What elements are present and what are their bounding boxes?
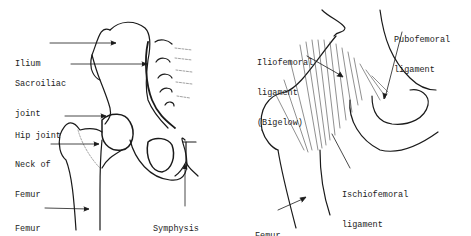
pelvis-drawing	[59, 22, 198, 230]
label-line: ligament	[342, 220, 408, 230]
label-line: Pubofemoral	[394, 35, 450, 45]
label-neck-of-femur: Neck of Femur	[15, 140, 51, 210]
label-line: Femur	[255, 231, 281, 236]
label-iliofemoral-ligament: Iliofemoral ligament (Bigelow)	[257, 38, 313, 138]
label-line: Ischiofemoral	[342, 190, 408, 200]
label-line: Iliofemoral	[257, 58, 313, 68]
label-line: Neck of	[15, 160, 51, 170]
label-femur-right: Femur	[255, 211, 281, 236]
label-symphysis-pubis: Symphysis Pubis	[153, 204, 199, 236]
label-line: Sacroiliac	[15, 79, 66, 89]
label-line: ligament	[257, 88, 313, 98]
label-femur-left: Femur	[15, 204, 41, 236]
label-line: Femur	[15, 190, 51, 200]
label-line: (Bigelow)	[257, 118, 313, 128]
label-line: ligament	[394, 65, 450, 75]
label-pubofemoral-ligament: Pubofemoral ligament	[394, 15, 450, 85]
label-line: Femur	[15, 224, 41, 234]
label-line: Symphysis	[153, 224, 199, 234]
label-ischiofemoral-ligament: Ischiofemoral ligament	[342, 170, 408, 236]
